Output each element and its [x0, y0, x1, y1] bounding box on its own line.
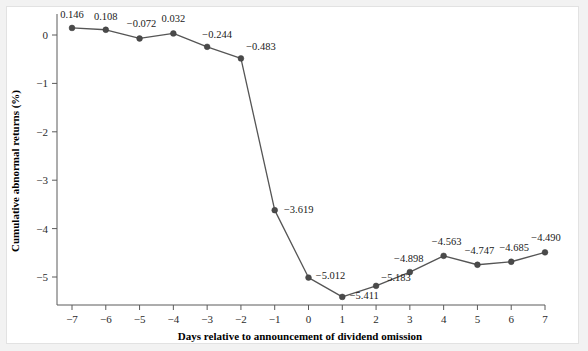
x-tick-label: 2 [373, 313, 379, 325]
x-tick-label: 1 [340, 313, 346, 325]
data-point-marker [69, 25, 75, 31]
x-tick-labels: −7−6−5−4−3−2−101234567 [66, 313, 548, 325]
x-tick-label: −5 [134, 313, 146, 325]
data-point-label: −4.490 [531, 232, 561, 243]
data-point-marker [508, 259, 514, 265]
x-tick-label: 6 [508, 313, 514, 325]
data-point-marker [103, 27, 109, 33]
data-point-marker [542, 249, 548, 255]
x-tick-label: 0 [306, 313, 312, 325]
x-tick-label: −3 [201, 313, 213, 325]
data-point-label: −0.483 [246, 41, 276, 52]
cumulative-abnormal-returns-chart: 0−1−2−3−4−5 −7−6−5−4−3−2−101234567 0.146… [0, 0, 588, 351]
data-point-label: −0.072 [127, 18, 157, 29]
data-point-label: −5.012 [316, 270, 346, 281]
data-point-label: −5.411 [350, 290, 379, 301]
y-tick-label: −3 [36, 174, 48, 186]
data-point-marker [475, 262, 481, 268]
data-point-marker [137, 36, 143, 42]
data-point-label: −4.685 [499, 242, 529, 253]
y-tick-labels: 0−1−2−3−4−5 [36, 29, 48, 283]
x-tick-label: 5 [475, 313, 481, 325]
data-point-marker [373, 283, 379, 289]
data-point-label: 0.108 [94, 11, 118, 22]
y-tick-label: −2 [36, 126, 48, 138]
data-point-markers [69, 25, 548, 300]
data-point-label: −4.563 [432, 236, 462, 247]
data-point-label: −4.898 [394, 253, 424, 264]
y-tick-marks [52, 35, 57, 277]
data-point-label: 0.146 [60, 9, 84, 20]
x-tick-label: −1 [269, 313, 281, 325]
data-point-labels: 0.1460.108−0.0720.032−0.244−0.483−3.619−… [60, 9, 561, 301]
data-point-label: −3.619 [284, 204, 314, 215]
data-point-marker [238, 55, 244, 61]
data-point-label: −5.183 [381, 272, 411, 283]
x-tick-label: 3 [407, 313, 413, 325]
x-tick-label: 4 [441, 313, 447, 325]
x-axis-title: Days relative to announcement of dividen… [178, 330, 422, 342]
data-point-marker [441, 253, 447, 259]
y-tick-label: 0 [43, 29, 49, 41]
y-tick-label: −4 [36, 223, 48, 235]
data-point-marker [272, 207, 278, 213]
data-point-marker [204, 44, 210, 50]
x-tick-label: −4 [167, 313, 179, 325]
y-axis-title: Cumulative abnormal returns (%) [9, 90, 22, 252]
data-series-line [72, 28, 545, 297]
x-tick-label: −2 [235, 313, 247, 325]
y-tick-label: −1 [36, 77, 48, 89]
y-tick-label: −5 [36, 271, 48, 283]
x-tick-label: −7 [66, 313, 78, 325]
x-tick-label: 7 [542, 313, 548, 325]
data-point-label: −4.747 [465, 245, 495, 256]
x-tick-marks [72, 305, 545, 310]
data-point-label: −0.244 [202, 29, 232, 40]
data-point-marker [339, 294, 345, 300]
x-tick-label: −6 [100, 313, 112, 325]
figure-container: 0−1−2−3−4−5 −7−6−5−4−3−2−101234567 0.146… [0, 0, 588, 351]
data-point-marker [306, 275, 312, 281]
data-point-label: 0.032 [162, 13, 186, 24]
data-point-marker [170, 31, 176, 37]
